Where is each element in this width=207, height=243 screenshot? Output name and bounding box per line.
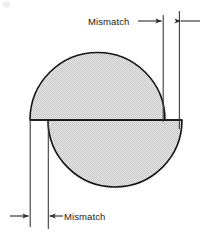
bottom-mismatch-label: Mismatch: [64, 211, 105, 222]
diagram-canvas: Mismatch Mismatch: [0, 0, 207, 243]
lower-semicircle: [48, 120, 182, 187]
upper-semicircle: [30, 53, 165, 121]
top-mismatch-label: Mismatch: [88, 16, 129, 27]
scan-artifact: [3, 2, 10, 8]
mismatch-diagram: Mismatch Mismatch: [0, 0, 207, 243]
